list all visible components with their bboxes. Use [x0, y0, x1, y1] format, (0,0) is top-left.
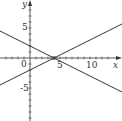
x-tick-label-5: 5: [57, 60, 63, 70]
y-tick-label-5: 5: [22, 22, 28, 32]
y-tick-label-neg5: -5: [20, 83, 29, 93]
x-tick-label-10: 10: [86, 60, 98, 70]
y-axis-label: y: [21, 0, 28, 9]
origin-label: 0: [21, 59, 27, 69]
coordinate-plot: 0 5 10 5 -5 x y: [0, 0, 122, 121]
y-axis-arrow-icon: [28, 0, 32, 6]
line-increasing: [0, 24, 122, 85]
x-axis-label: x: [113, 60, 118, 70]
